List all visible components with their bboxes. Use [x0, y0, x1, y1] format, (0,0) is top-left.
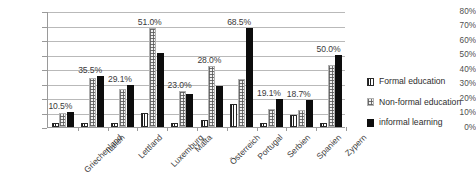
bar-informal-learning — [67, 112, 74, 127]
bar-formal-education — [320, 123, 327, 127]
x-axis-category-label: Spanien — [315, 133, 343, 161]
x-axis-tick-mark — [286, 127, 287, 131]
data-label: 18.7% — [287, 90, 311, 99]
bar-group — [316, 12, 346, 127]
data-label: 19.1% — [257, 89, 281, 98]
legend-label-formal: Formal education — [379, 77, 445, 86]
bar-formal-education — [230, 104, 237, 127]
legend-item-informal-learning: informal learning — [367, 117, 472, 128]
x-axis-tick-mark — [137, 127, 138, 131]
data-label: 35.5% — [78, 66, 102, 75]
bar-group — [227, 12, 257, 127]
bar-non-formal-education — [89, 78, 96, 127]
bar-formal-education — [171, 123, 178, 127]
x-axis-tick-mark — [227, 127, 228, 131]
legend-label-informal: informal learning — [379, 118, 443, 127]
bar-non-formal-education — [149, 28, 156, 127]
bar-non-formal-education — [268, 109, 275, 127]
y-axis-tick-label: 50% — [432, 51, 476, 59]
bar-non-formal-education — [298, 110, 305, 127]
bar-group — [108, 12, 138, 127]
bar-informal-learning — [306, 100, 313, 127]
bar-informal-learning — [127, 85, 134, 127]
data-label: 23.0% — [168, 81, 192, 90]
x-axis-tick-mark — [108, 127, 109, 131]
bar-chart: 80%70%60%50%40%30%20%10%0% Formal educat… — [0, 0, 476, 190]
bar-informal-learning — [335, 55, 342, 128]
bar-formal-education — [201, 120, 208, 127]
x-axis-tick-mark — [167, 127, 168, 131]
legend-item-formal-education: Formal education — [367, 76, 472, 87]
x-axis-category-label: Lettland — [136, 133, 163, 160]
x-axis-tick-mark — [346, 127, 347, 131]
y-axis-tick-mark — [42, 128, 47, 129]
bar-informal-learning — [276, 99, 283, 127]
bar-formal-education — [52, 123, 59, 127]
bar-non-formal-education — [238, 79, 245, 127]
y-axis-tick-label: 40% — [432, 66, 476, 74]
x-axis-tick-mark — [197, 127, 198, 131]
y-axis-tick-label: 60% — [432, 37, 476, 45]
x-axis-tick-mark — [257, 127, 258, 131]
data-label: 51.0% — [138, 18, 162, 27]
x-axis-tick-mark — [316, 127, 317, 131]
bar-formal-education — [260, 123, 267, 127]
x-axis-category-label: Zypern — [344, 133, 369, 158]
legend-swatch-informal-icon — [367, 119, 374, 127]
bar-informal-learning — [186, 94, 193, 127]
bar-group — [286, 12, 316, 127]
bar-formal-education — [111, 123, 118, 127]
bar-non-formal-education — [328, 65, 335, 127]
x-axis-category-label: Serbien — [285, 133, 312, 160]
data-label: 68.5% — [227, 18, 251, 27]
chart-legend: Formal education Non-formal education in… — [367, 76, 472, 138]
legend-swatch-formal-icon — [367, 78, 374, 86]
bar-group — [137, 12, 167, 127]
bar-non-formal-education — [179, 91, 186, 127]
bar-informal-learning — [97, 76, 104, 127]
bar-informal-learning — [216, 86, 223, 127]
bar-non-formal-education — [59, 113, 66, 127]
bar-informal-learning — [157, 53, 164, 127]
legend-label-nonformal: Non-formal education — [379, 98, 461, 107]
bar-formal-education — [141, 113, 148, 128]
bar-group — [197, 12, 227, 127]
x-axis-category-label: Italien — [104, 133, 126, 155]
x-axis-category-label: Österreich — [228, 133, 262, 167]
data-label: 28.0% — [197, 56, 221, 65]
y-axis-tick-label: 70% — [432, 22, 476, 30]
bar-informal-learning — [246, 28, 253, 127]
legend-swatch-nonformal-icon — [367, 98, 374, 106]
bar-formal-education — [81, 123, 88, 127]
bar-non-formal-education — [208, 66, 215, 127]
data-label: 50.0% — [317, 45, 341, 54]
bar-formal-education — [290, 115, 297, 127]
x-axis-tick-mark — [78, 127, 79, 131]
y-axis-tick-label: 80% — [432, 8, 476, 16]
bar-group — [257, 12, 287, 127]
bar-non-formal-education — [119, 89, 126, 127]
bar-group — [167, 12, 197, 127]
data-label: 29.1% — [108, 75, 132, 84]
legend-item-non-formal-education: Non-formal education — [367, 97, 472, 108]
data-label: 10.5% — [48, 102, 72, 111]
